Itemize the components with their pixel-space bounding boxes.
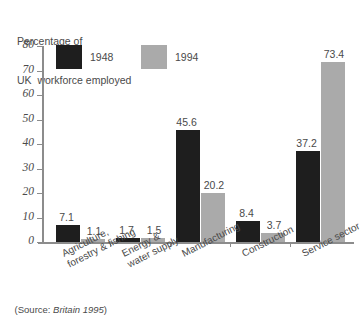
y-tick-10 (37, 218, 43, 219)
y-tick-label-60: 60 (23, 87, 35, 99)
y-tick-label-40: 40 (23, 136, 35, 148)
bar-value-label: 20.2 (204, 179, 224, 191)
plot-area: 01020304050607080 7.11.11.71.545.620.28.… (42, 46, 354, 242)
bar-value-label: 37.2 (296, 137, 316, 149)
y-tick-label-10: 10 (23, 210, 35, 222)
bar-value-label: 7.1 (59, 211, 74, 223)
bar-1948-group-4[interactable]: 37.2 (296, 151, 320, 242)
y-tick-label-20: 20 (23, 185, 35, 197)
bar-1948-group-0[interactable]: 7.1 (56, 225, 80, 242)
y-tick-80 (37, 46, 43, 47)
y-tick-label-50: 50 (23, 112, 35, 124)
y-tick-label-30: 30 (23, 161, 35, 173)
y-tick-label-80: 80 (23, 38, 35, 50)
bar-value-label: 45.6 (176, 116, 196, 128)
y-tick-20 (37, 193, 43, 194)
y-tick-50 (37, 120, 43, 121)
source-suffix: ) (104, 304, 107, 315)
bar-1994-group-4[interactable]: 73.4 (321, 62, 345, 242)
y-tick-70 (37, 71, 43, 72)
source-title: Britain 1995 (53, 304, 104, 315)
bar-1948-group-2[interactable]: 45.6 (176, 130, 200, 242)
y-tick-label-0: 0 (28, 234, 34, 246)
y-tick-60 (37, 95, 43, 96)
y-tick-30 (37, 169, 43, 170)
bar-value-label: 73.4 (324, 48, 344, 60)
source-note: (Source: Britain 1995) (4, 293, 107, 319)
source-prefix: (Source: (15, 304, 54, 315)
x-tick-4 (290, 242, 291, 247)
y-tick-label-70: 70 (23, 63, 35, 75)
x-tick-3 (230, 242, 231, 247)
bar-value-label: 8.4 (239, 207, 254, 219)
y-tick-40 (37, 144, 43, 145)
y-tick-0 (37, 242, 43, 243)
